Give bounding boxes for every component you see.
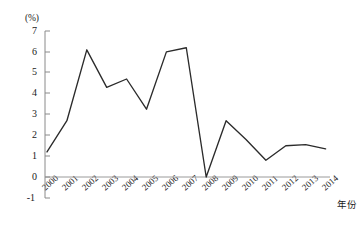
data-series-line	[47, 48, 326, 177]
line-chart: (%) 7 6 5 4 3 2 1 0 -1 2000 2001 2002 20…	[0, 0, 364, 233]
plot-area	[0, 0, 364, 233]
